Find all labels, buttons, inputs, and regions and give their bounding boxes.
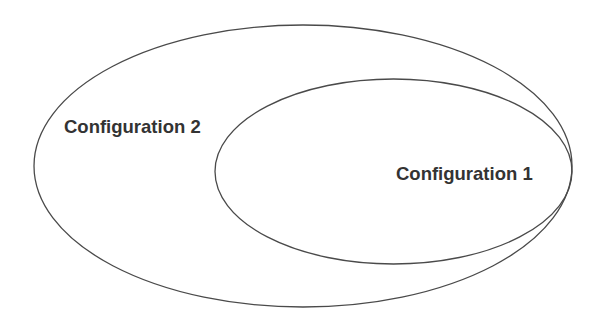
set-configuration-1: Configuration 1 (215, 79, 572, 264)
venn-diagram: Configuration 2 Configuration 1 (0, 0, 598, 322)
label-configuration-1: Configuration 1 (396, 163, 533, 184)
label-configuration-2: Configuration 2 (64, 116, 201, 137)
